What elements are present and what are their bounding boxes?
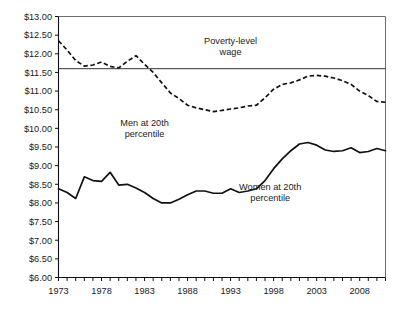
y-tick-label: $13.00 bbox=[24, 12, 52, 22]
annotation-line-1: Poverty-level bbox=[204, 36, 257, 46]
y-axis-tick-labels: $13.00$12.50$12.00$11.50$11.00$10.50$10.… bbox=[24, 12, 52, 283]
y-tick-label: $11.50 bbox=[25, 68, 52, 78]
x-tick-label: 1978 bbox=[91, 286, 111, 296]
y-tick-label: $8.00 bbox=[29, 198, 52, 208]
chart-figure: $13.00$12.50$12.00$11.50$11.00$10.50$10.… bbox=[0, 0, 416, 309]
y-tick-label: $6.00 bbox=[29, 273, 52, 283]
y-tick-label: $10.50 bbox=[24, 105, 52, 115]
y-tick-label: $9.00 bbox=[29, 161, 52, 171]
annotation-men-20th-percentile: Men at 20thpercentile bbox=[120, 118, 169, 139]
y-tick-label: $12.00 bbox=[24, 49, 52, 59]
x-tick-label: 1973 bbox=[48, 286, 68, 296]
x-tick-label: 2008 bbox=[349, 286, 369, 296]
annotation-line-1: Women at 20th bbox=[239, 182, 301, 192]
annotation-line-2: wage bbox=[219, 47, 242, 57]
x-tick-label: 1983 bbox=[134, 286, 154, 296]
y-tick-label: $8.50 bbox=[29, 180, 52, 190]
x-tick-label: 1998 bbox=[263, 286, 283, 296]
y-tick-label: $11.00 bbox=[25, 86, 52, 96]
y-tick-label: $10.00 bbox=[24, 124, 52, 134]
y-tick-label: $9.50 bbox=[29, 142, 52, 152]
x-tick-label: 2003 bbox=[306, 286, 326, 296]
y-tick-label: $7.00 bbox=[29, 236, 52, 246]
x-tick-label: 1988 bbox=[177, 286, 197, 296]
y-tick-label: $6.50 bbox=[29, 254, 52, 264]
annotation-line-2: percentile bbox=[250, 193, 290, 203]
chart-canvas: $13.00$12.50$12.00$11.50$11.00$10.50$10.… bbox=[0, 0, 416, 309]
y-tick-label: $7.50 bbox=[29, 217, 52, 227]
y-tick-label: $12.50 bbox=[24, 30, 52, 40]
x-tick-label: 1993 bbox=[220, 286, 240, 296]
annotation-line-2: percentile bbox=[125, 129, 165, 139]
annotation-line-1: Men at 20th bbox=[120, 118, 169, 128]
